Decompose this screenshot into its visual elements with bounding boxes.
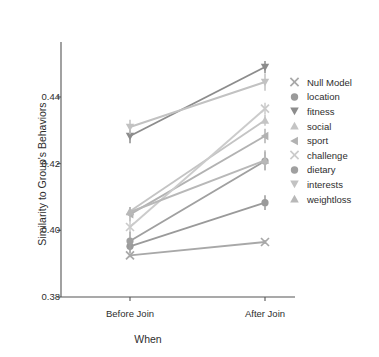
- data-marker-triangle-left: [290, 136, 298, 145]
- data-marker-triangle-down: [126, 124, 134, 132]
- chart-figure: Similarity to Group's Behaviors When 0.3…: [0, 0, 379, 357]
- data-marker-triangle-down: [290, 181, 299, 189]
- legend-label: challenge: [307, 150, 348, 161]
- series-interests: [126, 73, 269, 134]
- legend-item-sport[interactable]: sport: [286, 133, 379, 148]
- x-tick-label: Before Join: [85, 308, 175, 319]
- legend-marker-triangle-up-icon: [286, 192, 303, 206]
- legend-marker-x-icon: [286, 148, 303, 162]
- legend-item-null-model[interactable]: Null Model: [286, 75, 379, 90]
- legend-marker-triangle-up-icon: [286, 119, 303, 133]
- data-marker-circle: [126, 237, 133, 244]
- legend-marker-triangle-down-icon: [286, 177, 303, 191]
- x-tick-label: After Join: [220, 308, 310, 319]
- x-axis-label: When: [0, 333, 296, 345]
- data-marker-circle: [291, 166, 298, 173]
- legend-marker-triangle-down-icon: [286, 104, 303, 118]
- data-marker-x: [290, 151, 298, 159]
- legend-item-social[interactable]: social: [286, 119, 379, 134]
- legend-marker-circle-icon: [286, 90, 303, 104]
- legend-item-challenge[interactable]: challenge: [286, 148, 379, 163]
- legend-label: location: [307, 91, 340, 102]
- legend-marker-circle-icon: [286, 163, 303, 177]
- legend-label: social: [307, 121, 331, 132]
- data-marker-triangle-up: [261, 116, 269, 124]
- legend-label: Null Model: [307, 77, 352, 88]
- data-marker-triangle-up: [290, 195, 299, 203]
- legend-label: sport: [307, 135, 328, 146]
- legend-label: weightloss: [307, 194, 351, 205]
- legend-item-weightloss[interactable]: weightloss: [286, 192, 379, 207]
- y-tick-label: 0.44: [22, 91, 60, 102]
- chart-legend: Null Modellocationfitnesssocialsportchal…: [286, 75, 379, 206]
- series-line: [130, 136, 265, 214]
- legend-marker-x-icon: [286, 75, 303, 89]
- series-line: [130, 161, 265, 241]
- series-line: [130, 120, 265, 211]
- legend-item-dietary[interactable]: dietary: [286, 163, 379, 178]
- legend-marker-triangle-left-icon: [286, 134, 303, 148]
- legend-label: fitness: [307, 106, 334, 117]
- y-tick-label: 0.40: [22, 224, 60, 235]
- data-marker-circle: [291, 93, 298, 100]
- series-line: [130, 82, 265, 127]
- data-marker-circle: [261, 199, 268, 206]
- legend-item-fitness[interactable]: fitness: [286, 104, 379, 119]
- data-marker-triangle-down: [290, 108, 299, 116]
- series-weightloss: [126, 150, 269, 216]
- data-marker-x: [290, 78, 298, 86]
- legend-item-location[interactable]: location: [286, 90, 379, 105]
- legend-item-interests[interactable]: interests: [286, 177, 379, 192]
- legend-label: interests: [307, 179, 343, 190]
- series-line: [130, 242, 265, 255]
- y-axis-label: Similarity to Group's Behaviors: [36, 54, 48, 294]
- y-tick-label: 0.38: [22, 291, 60, 302]
- y-tick-label: 0.42: [22, 158, 60, 169]
- data-marker-triangle-down: [261, 64, 269, 72]
- data-marker-triangle-up: [290, 122, 299, 130]
- legend-label: dietary: [307, 164, 336, 175]
